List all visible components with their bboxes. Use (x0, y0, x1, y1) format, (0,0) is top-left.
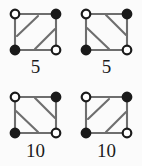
graph-edges-2 (86, 14, 127, 50)
node-top-left-open (11, 93, 20, 102)
graph-drawing-1 (7, 6, 64, 58)
node-bottom-left-filled (81, 45, 90, 54)
node-top-left-open (11, 10, 20, 19)
edge-chord-lower (106, 112, 126, 132)
edge-chord-upper (88, 99, 109, 119)
graph-caption-1: 5 (0, 56, 71, 78)
edge-chord-upper (106, 15, 126, 35)
graph-caption-2: 5 (71, 56, 142, 78)
node-bottom-left-filled (10, 45, 19, 54)
node-bottom-right-open (52, 46, 61, 55)
node-bottom-left-filled (81, 128, 90, 137)
graph-edges-3 (15, 97, 56, 133)
graph-figure: 5 5 (0, 0, 142, 166)
graph-panel-3: 10 (0, 83, 71, 166)
edge-chord-upper (35, 98, 55, 118)
graph-panel-4: 10 (71, 83, 142, 166)
graph-panel-2: 5 (71, 0, 142, 83)
node-bottom-right-open (123, 46, 132, 55)
graph-drawing-4 (78, 89, 135, 141)
graph-panel-1: 5 (0, 0, 71, 83)
node-bottom-right-open (52, 129, 61, 138)
node-top-right-filled (122, 92, 131, 101)
node-top-right-filled (51, 92, 60, 101)
edge-chord-lower (35, 29, 55, 49)
graph-caption-4: 10 (71, 140, 142, 162)
graph-drawing-3 (7, 89, 64, 141)
node-bottom-left-filled (10, 128, 19, 137)
graph-edges-1 (15, 14, 56, 50)
node-top-right-filled (51, 9, 60, 18)
edge-chord-upper (17, 16, 38, 36)
node-top-left-open (82, 10, 91, 19)
graph-caption-3: 10 (0, 140, 71, 162)
node-top-left-open (82, 93, 91, 102)
node-bottom-right-open (123, 129, 132, 138)
node-top-right-filled (122, 9, 131, 18)
graph-drawing-2 (78, 6, 135, 58)
edge-chord-lower (87, 28, 109, 49)
edge-chord-lower (16, 111, 38, 132)
graph-edges-4 (86, 97, 127, 133)
